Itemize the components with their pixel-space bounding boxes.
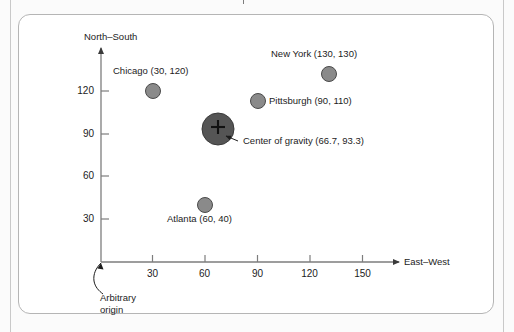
y-tick-label-120: 120: [73, 85, 94, 96]
page-rule-right: [503, 0, 504, 332]
x-tick-label-60: 60: [189, 268, 220, 279]
point-label-chicago: Chicago (30, 120): [113, 66, 189, 77]
arbitrary-origin-annotation: Arbitrary origin: [100, 292, 136, 316]
y-axis-title: North–South: [84, 31, 137, 42]
x-tick-label-120: 120: [294, 268, 325, 279]
figure-page: North–South East–West 120 90 60 30 30 60…: [0, 0, 514, 332]
x-tick-label-30: 30: [137, 268, 168, 279]
y-tick-label-90: 90: [73, 128, 94, 139]
point-label-pittsburgh: Pittsburgh (90, 110): [269, 96, 352, 107]
y-tick-label-60: 60: [73, 170, 94, 181]
point-label-newyork: New York (130, 130): [271, 49, 357, 60]
x-tick-label-90: 90: [242, 268, 273, 279]
y-tick-label-30: 30: [73, 213, 94, 224]
point-label-center-of-gravity: Center of gravity (66.7, 93.3): [243, 136, 364, 147]
arbitrary-origin-line-2: origin: [100, 304, 136, 316]
x-tick-label-150: 150: [347, 268, 378, 279]
arbitrary-origin-line-1: Arbitrary: [100, 292, 136, 304]
point-label-atlanta: Atlanta (60, 40): [167, 214, 232, 225]
page-rule-left: [10, 0, 11, 332]
cropped-title-mark: [243, 0, 244, 4]
x-axis-title: East–West: [404, 256, 450, 267]
